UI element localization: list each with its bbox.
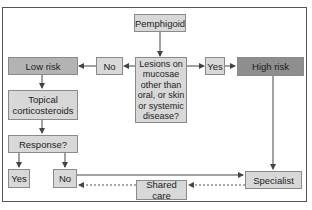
node-shared-care-label: Shared care [137,179,186,201]
node-response-no: No [53,169,77,188]
node-response: Response? [8,135,78,153]
node-shared-care: Shared care [136,180,187,200]
node-high-risk: High risk [237,57,304,76]
node-decision: Lesions on mucosae other than oral, or s… [135,57,187,123]
node-no-left: No [96,57,123,75]
node-topical-corticosteroids: Topical corticosteroids [8,90,78,120]
node-decision-label: Lesions on mucosae other than oral, or s… [138,59,185,122]
node-low-risk-label: Low risk [26,61,61,72]
node-yes-right-label: Yes [207,61,223,72]
node-pemphigoid: Pemphigoid [134,14,186,32]
node-no-left-label: No [103,61,115,72]
node-topical-label: Topical corticosteroids [12,94,73,116]
node-pemphigoid-label: Pemphigoid [135,18,185,29]
node-response-no-label: No [59,173,71,184]
node-response-yes: Yes [8,169,30,188]
node-low-risk: Low risk [8,57,78,75]
node-yes-right: Yes [205,57,225,75]
node-high-risk-label: High risk [252,61,289,72]
node-response-label: Response? [19,139,67,150]
node-specialist: Specialist [245,171,302,189]
node-response-yes-label: Yes [11,173,27,184]
node-specialist-label: Specialist [253,175,294,186]
